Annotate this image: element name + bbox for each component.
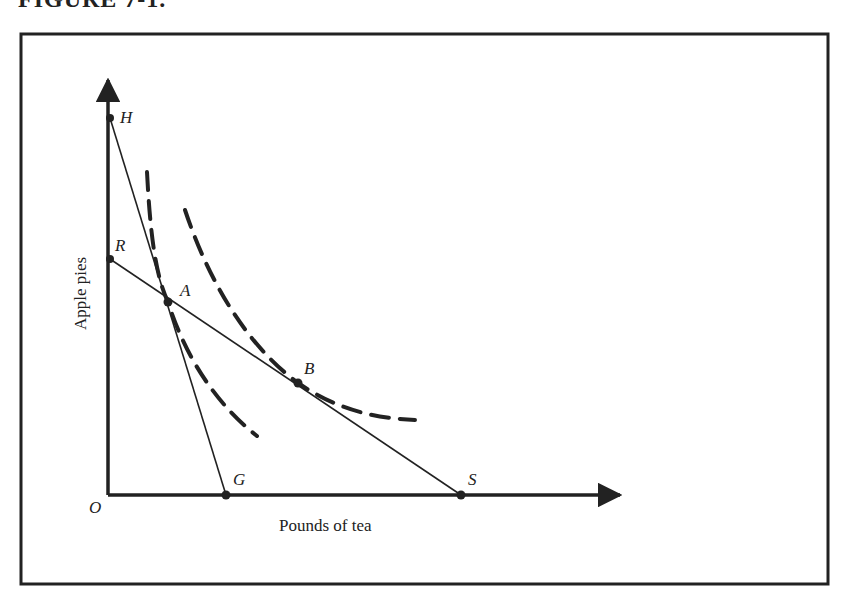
point-A <box>164 298 173 307</box>
indifference-curve-1 <box>147 172 257 436</box>
indifference-curve-2 <box>185 210 415 420</box>
point-G <box>222 491 231 500</box>
label-R: R <box>114 236 126 255</box>
diagram-canvas: H R A B G S O Pounds of tea Apple pies <box>0 0 844 611</box>
label-B: B <box>304 359 315 378</box>
label-G: G <box>233 470 245 489</box>
label-S: S <box>468 470 477 489</box>
point-R <box>106 255 114 263</box>
label-H: H <box>119 108 134 127</box>
y-axis-title: Apple pies <box>71 257 90 330</box>
point-H <box>106 114 114 122</box>
point-S <box>457 491 466 500</box>
label-A: A <box>179 281 191 300</box>
figure-frame <box>21 34 828 584</box>
x-axis-title: Pounds of tea <box>279 516 372 535</box>
point-B <box>294 379 303 388</box>
label-origin: O <box>89 498 101 517</box>
